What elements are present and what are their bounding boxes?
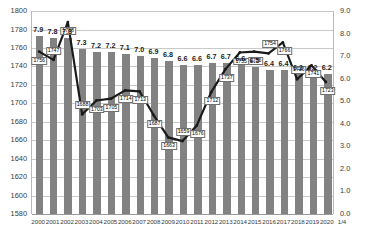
bar — [64, 38, 72, 214]
right-axis-tick-label: 3.0 — [340, 142, 368, 149]
right-axis-tick-label: 0.0 — [340, 210, 368, 217]
left-axis-tick-label: 1740 — [0, 62, 27, 69]
line-value-label: 1663 — [161, 142, 177, 150]
left-axis-tick-label: 1620 — [0, 173, 27, 180]
left-axis-tick-label: 1760 — [0, 44, 27, 51]
bar — [295, 74, 303, 214]
left-axis-tick-label: 1680 — [0, 118, 27, 125]
line-point — [66, 21, 69, 24]
line-value-label: 1756 — [31, 57, 47, 65]
bar — [238, 65, 246, 214]
bar — [281, 70, 289, 214]
bar — [50, 38, 58, 214]
right-axis-tick-label: 9.0 — [340, 7, 368, 14]
line-value-label: 1712 — [205, 97, 221, 105]
bar — [223, 63, 231, 214]
bar — [266, 70, 274, 214]
right-axis-tick-label: 7.0 — [340, 52, 368, 59]
line-value-label: 1714 — [118, 95, 134, 103]
bar-value-label: 6.2 — [317, 64, 337, 71]
right-axis-tick-label: 2.0 — [340, 165, 368, 172]
bar — [137, 56, 145, 214]
chart-container: 1800178017601740172017001680166016401620… — [0, 0, 369, 251]
line-value-label: 1723 — [320, 87, 336, 95]
line-point — [267, 52, 270, 55]
line-value-label: 1687 — [147, 120, 163, 128]
bar — [209, 63, 217, 214]
line-value-label: 1703 — [89, 106, 105, 114]
right-axis-tick-label: 8.0 — [340, 30, 368, 37]
line-value-label: 1676 — [190, 130, 206, 138]
bar — [252, 67, 260, 214]
line-value-label: 1705 — [104, 104, 120, 112]
line-point — [253, 50, 256, 53]
left-axis-tick-label: 1720 — [0, 81, 27, 88]
left-axis-tick-label: 1580 — [0, 210, 27, 217]
bar — [79, 49, 87, 214]
right-axis-tick-label: 4.0 — [340, 120, 368, 127]
gridline — [32, 30, 333, 31]
right-axis-tick-label: 1.0 — [340, 187, 368, 194]
bar — [122, 54, 130, 214]
line-value-label: 1766 — [277, 47, 293, 55]
gridline — [32, 11, 333, 12]
line-value-label: 1688 — [75, 101, 91, 109]
left-axis-tick-label: 1700 — [0, 99, 27, 106]
left-axis-tick-label: 1660 — [0, 136, 27, 143]
bar — [93, 52, 101, 214]
bar — [194, 65, 202, 214]
bar — [310, 74, 318, 214]
line-value-label: 1747 — [46, 47, 62, 55]
line-value-label: 1659 — [176, 128, 192, 136]
line-value-label: 1754 — [262, 40, 278, 48]
right-axis-tick-label: 5.0 — [340, 97, 368, 104]
bar-value-label: 7.8 — [57, 28, 77, 35]
bar — [324, 74, 332, 214]
left-axis-tick-label: 1640 — [0, 155, 27, 162]
gridline — [32, 214, 333, 215]
bar — [165, 61, 173, 214]
line-value-label: 1713 — [132, 96, 148, 104]
line-value-label: 1737 — [219, 74, 235, 82]
left-axis-tick-label: 1780 — [0, 26, 27, 33]
line-point — [281, 41, 284, 44]
bar — [151, 58, 159, 214]
left-axis-tick-label: 1800 — [0, 7, 27, 14]
bar — [108, 52, 116, 214]
bar — [180, 65, 188, 214]
right-axis-tick-label: 6.0 — [340, 75, 368, 82]
left-axis-tick-label: 1600 — [0, 192, 27, 199]
x-axis-extra-label: 1/4 — [335, 219, 349, 225]
